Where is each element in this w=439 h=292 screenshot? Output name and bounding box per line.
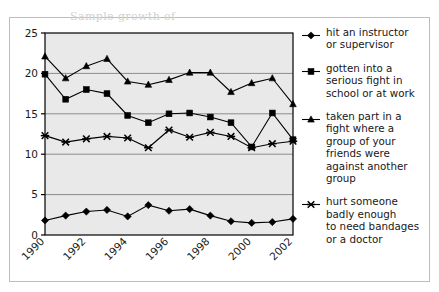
legend-entry: taken part in a fight where a group of y… — [301, 110, 427, 184]
svg-text:20: 20 — [25, 67, 38, 79]
legend-label: gotten into a serious fight in school or… — [326, 62, 415, 99]
square-marker — [301, 63, 321, 76]
legend-label: taken part in a fight where a group of y… — [326, 110, 408, 184]
chart-figure-frame: Sample growth of 0510152025 199019921994… — [9, 17, 430, 282]
x-axis-tick-labels: 1990199219941996199820002002 — [19, 235, 294, 263]
svg-text:1998: 1998 — [184, 235, 211, 262]
svg-text:1994: 1994 — [102, 235, 130, 263]
plot-area-background — [45, 33, 293, 235]
y-axis-tick-labels: 0510152025 — [25, 27, 38, 241]
legend-entry: hit an instructor or supervisor — [301, 26, 427, 51]
diamond-marker — [301, 27, 321, 40]
svg-text:25: 25 — [25, 27, 38, 39]
svg-text:5: 5 — [31, 188, 38, 200]
legend-label: hurt someone badly enough to need bandag… — [326, 195, 419, 245]
svg-text:1996: 1996 — [143, 235, 171, 263]
chart-legend: hit an instructor or supervisorgotten in… — [301, 26, 427, 276]
legend-entry: gotten into a serious fight in school or… — [301, 62, 427, 99]
triangle-marker — [301, 111, 321, 124]
svg-text:10: 10 — [25, 148, 38, 160]
svg-text:1990: 1990 — [19, 235, 46, 262]
svg-text:1992: 1992 — [60, 235, 87, 262]
x-marker — [301, 196, 321, 209]
legend-label: hit an instructor or supervisor — [326, 26, 409, 51]
svg-text:2002: 2002 — [267, 235, 294, 262]
svg-text:2000: 2000 — [226, 235, 253, 262]
svg-text:15: 15 — [25, 108, 38, 120]
legend-entry: hurt someone badly enough to need bandag… — [301, 195, 427, 245]
